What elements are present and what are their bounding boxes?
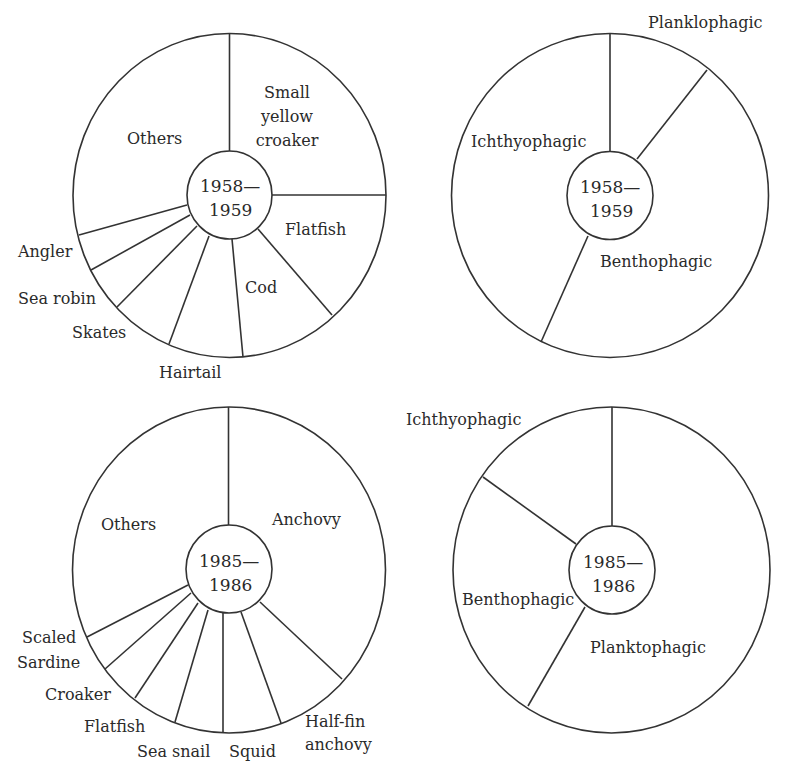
divider-hairtail-skates xyxy=(169,236,209,344)
slice-label-small-yellow-croaker: croaker xyxy=(256,131,319,150)
period-label-line2: 1986 xyxy=(209,575,252,595)
slice-label-anchovy: Anchovy xyxy=(271,510,341,529)
divider-sea-snail-flatfish xyxy=(175,610,208,722)
divider-benthophagic-ichthyophagic xyxy=(541,236,588,342)
divider-planktophagic-benthophagic xyxy=(637,70,707,159)
period-label-line2: 1986 xyxy=(592,576,635,596)
slice-label-sea-robin: Sea robin xyxy=(18,289,96,308)
divider-benthophagic-planktophagic xyxy=(528,607,585,706)
divider-flatfish-croaker xyxy=(135,603,198,698)
slice-label-others: Others xyxy=(101,515,156,534)
divider-scaled-sardine-others xyxy=(87,585,188,637)
pie-chart-1985-feeding: 1985— 1986 Ichthyophagic Benthophagic Pl… xyxy=(406,407,770,733)
slice-label-benthophagic: Benthophagic xyxy=(600,252,712,271)
divider-cod-hairtail xyxy=(232,239,243,357)
slice-label-planktophagic: Planktophagic xyxy=(590,638,706,657)
figure: 1958— 1959 Small yellow croaker Others F… xyxy=(0,0,788,779)
slice-label-cod: Cod xyxy=(245,278,277,297)
slice-label-flatfish: Flatfish xyxy=(285,220,346,239)
divider-sea-robin-angler xyxy=(91,215,190,270)
slice-label-benthophagic: Benthophagic xyxy=(462,590,574,609)
slice-label-planktophagic: Planklophagic xyxy=(648,13,763,32)
slice-label-angler: Angler xyxy=(17,242,73,261)
period-label-line1: 1985— xyxy=(199,551,259,571)
pie-chart-1958-species: 1958— 1959 Small yellow croaker Others F… xyxy=(17,34,386,383)
period-label-line1: 1958— xyxy=(580,177,640,197)
slice-label-half-fin-anchovy: Half-fin xyxy=(305,712,365,731)
divider-half-fin-anchovy-squid xyxy=(241,612,281,723)
slice-label-others: Others xyxy=(127,129,182,148)
period-label-line2: 1959 xyxy=(590,201,633,221)
slice-label-scaled-sardine: Scaled xyxy=(22,628,76,647)
slice-label-half-fin-anchovy: anchovy xyxy=(305,735,372,754)
pie-chart-1985-species: 1985— 1986 Anchovy Others Scaled Sardine… xyxy=(17,407,386,761)
divider-anchovy-half-fin-anchovy xyxy=(260,602,342,679)
slice-label-scaled-sardine: Sardine xyxy=(17,653,80,672)
slice-label-flatfish: Flatfish xyxy=(84,717,145,736)
period-label-line2: 1959 xyxy=(209,200,252,220)
divider-ichthyophagic-benthophagic xyxy=(483,477,576,544)
slice-label-hairtail: Hairtail xyxy=(159,363,221,382)
divider-skates-sea-robin xyxy=(117,226,197,307)
slice-label-croaker: Croaker xyxy=(45,685,111,704)
slice-label-sea-snail: Sea snail xyxy=(137,742,210,761)
divider-croaker-scaled-sardine xyxy=(105,593,191,669)
slice-label-squid: Squid xyxy=(229,742,276,761)
divider-flatfish-cod xyxy=(258,229,332,315)
pie-chart-1958-feeding: 1958— 1959 Planklophagic Ichthyophagic B… xyxy=(452,13,769,358)
slice-label-small-yellow-croaker: yellow xyxy=(260,107,313,126)
slice-label-ichthyophagic: Ichthyophagic xyxy=(471,132,586,151)
divider-angler-others xyxy=(79,205,187,235)
period-label-line1: 1985— xyxy=(583,552,643,572)
slice-label-skates: Skates xyxy=(72,323,126,342)
period-label-line1: 1958— xyxy=(200,176,260,196)
slice-label-ichthyophagic: Ichthyophagic xyxy=(406,410,521,429)
slice-label-small-yellow-croaker: Small xyxy=(264,83,310,102)
